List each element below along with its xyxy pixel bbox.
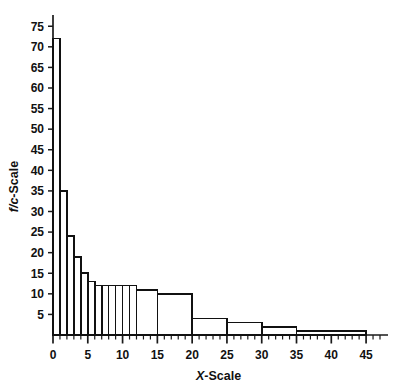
y-tick-label-40: 40 xyxy=(31,164,45,178)
y-tick-label-35: 35 xyxy=(31,184,45,198)
x-tick-label-25: 25 xyxy=(220,348,234,362)
x-tick-label-0: 0 xyxy=(50,348,57,362)
chart-canvas: 5101520253035404550556065707505101520253… xyxy=(0,0,396,390)
histogram-bar-5 xyxy=(88,281,95,335)
histogram-bar-6 xyxy=(95,286,102,335)
histogram-bar-2 xyxy=(67,236,74,335)
histogram-bar-0 xyxy=(53,39,60,335)
x-tick-label-5: 5 xyxy=(84,348,91,362)
histogram-bar-10 xyxy=(123,286,130,335)
y-tick-label-65: 65 xyxy=(31,61,45,75)
x-tick-label-45: 45 xyxy=(359,348,373,362)
y-tick-label-75: 75 xyxy=(31,20,45,34)
x-tick-label-30: 30 xyxy=(255,348,269,362)
histogram-bar-14 xyxy=(192,319,227,335)
x-tick-label-15: 15 xyxy=(151,348,165,362)
histogram-bar-8 xyxy=(109,286,116,335)
x-axis-title: X-Scale xyxy=(195,369,241,383)
y-tick-label-10: 10 xyxy=(31,287,45,301)
histogram-bar-16 xyxy=(262,327,297,335)
y-tick-label-50: 50 xyxy=(31,122,45,136)
histogram-bar-9 xyxy=(116,286,123,335)
y-tick-label-45: 45 xyxy=(31,143,45,157)
y-tick-label-20: 20 xyxy=(31,246,45,260)
y-tick-label-60: 60 xyxy=(31,81,45,95)
histogram-bar-11 xyxy=(130,286,137,335)
histogram-figure: 5101520253035404550556065707505101520253… xyxy=(0,0,396,390)
histogram-bar-4 xyxy=(81,273,88,335)
x-tick-label-10: 10 xyxy=(116,348,130,362)
x-tick-label-40: 40 xyxy=(325,348,339,362)
histogram-bar-15 xyxy=(227,323,262,335)
y-tick-label-55: 55 xyxy=(31,102,45,116)
y-tick-label-15: 15 xyxy=(31,267,45,281)
histogram-bar-17 xyxy=(297,331,367,335)
histogram-bar-13 xyxy=(157,294,192,335)
y-tick-label-5: 5 xyxy=(37,308,44,322)
y-tick-label-70: 70 xyxy=(31,40,45,54)
histogram-bar-3 xyxy=(74,257,81,335)
histogram-bar-7 xyxy=(102,286,109,335)
x-tick-label-35: 35 xyxy=(290,348,304,362)
histogram-bar-1 xyxy=(60,191,67,335)
histogram-bar-12 xyxy=(136,290,157,335)
y-tick-label-25: 25 xyxy=(31,225,45,239)
x-tick-label-20: 20 xyxy=(185,348,199,362)
y-axis-title: f/c-Scale xyxy=(7,161,21,212)
y-tick-label-30: 30 xyxy=(31,205,45,219)
